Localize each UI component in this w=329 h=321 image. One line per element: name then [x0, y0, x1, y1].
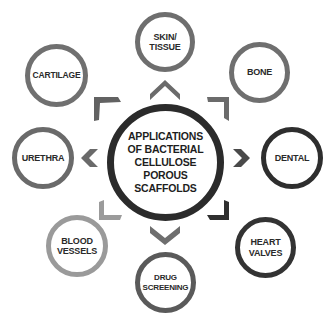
node-label: DENTAL [275, 153, 310, 163]
center-label: APPLICATIONS OF BACTERIAL CELLULOSE PORO… [128, 130, 204, 196]
chevron-left-icon [81, 149, 98, 167]
node-label: BONE [247, 67, 272, 77]
node-label: BLOOD VESSELS [57, 236, 97, 257]
chevron-down-left-icon [99, 200, 122, 220]
node-heart-valves: HEART VALVES [235, 217, 296, 278]
node-cartilage: CARTILAGE [25, 44, 88, 107]
node-bone: BONE [229, 42, 290, 103]
node-label: HEART VALVES [249, 237, 282, 258]
node-label: DRUG SCREENING [143, 273, 189, 291]
node-urethra: URETHRA [12, 127, 74, 189]
node-skin-tissue: SKIN/ TISSUE [135, 12, 195, 72]
chevron-up-icon [150, 80, 180, 100]
node-label: URETHRA [22, 153, 65, 163]
chevron-up-right-icon [207, 97, 229, 121]
node-label: SKIN/ TISSUE [149, 32, 180, 53]
node-drug-screening: DRUG SCREENING [135, 252, 196, 313]
chevron-right-icon [233, 149, 250, 167]
center-node: APPLICATIONS OF BACTERIAL CELLULOSE PORO… [107, 104, 224, 221]
chevron-up-left-icon [94, 97, 121, 121]
chevron-down-right-icon [207, 200, 229, 220]
chevron-down-icon [150, 226, 180, 245]
node-blood-vessels: BLOOD VESSELS [46, 215, 108, 277]
node-label: CARTILAGE [33, 71, 81, 81]
node-dental: DENTAL [261, 127, 323, 189]
